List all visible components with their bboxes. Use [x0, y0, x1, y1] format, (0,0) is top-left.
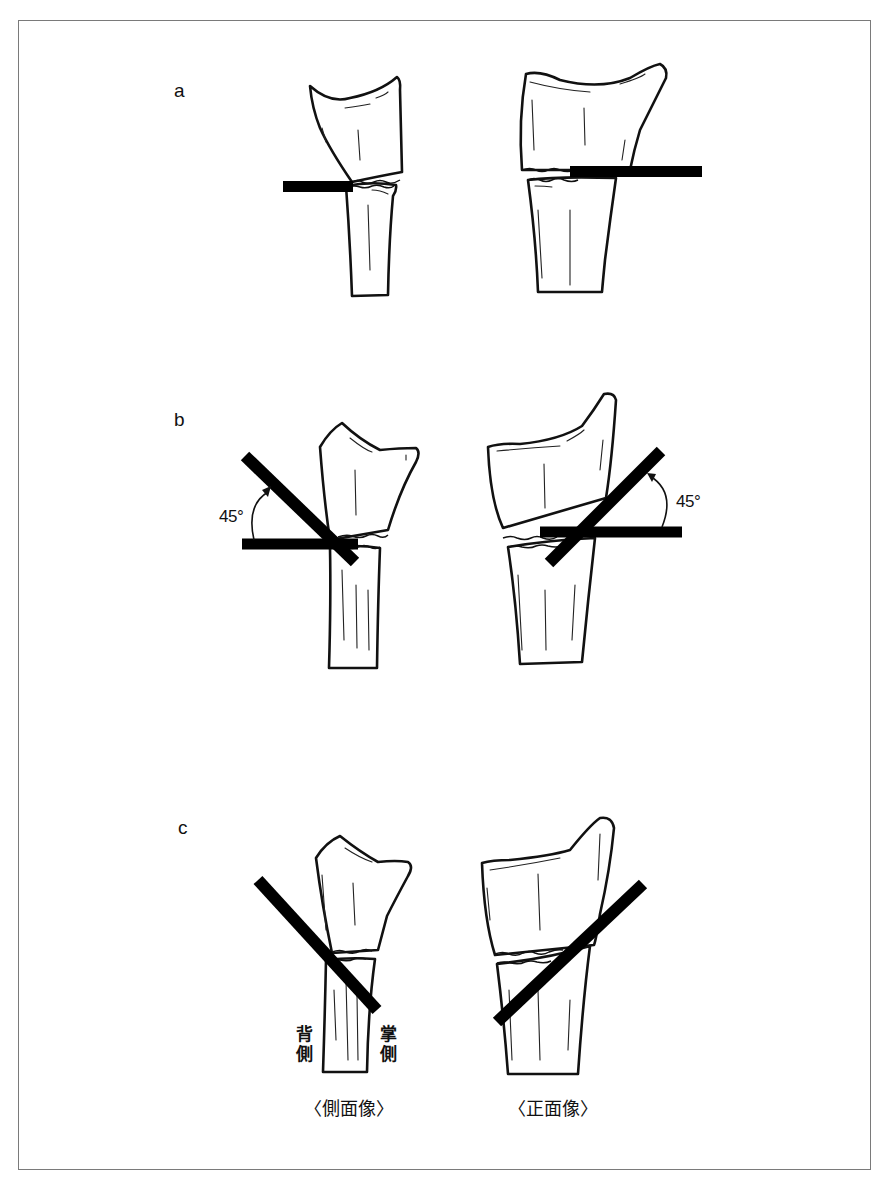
panel-label-a: a	[174, 81, 185, 100]
panel-b-ap-angle-label: 45°	[676, 493, 700, 510]
lateral-view-caption: 〈側面像〉	[304, 1100, 394, 1118]
panel-label-c: c	[178, 818, 188, 837]
panel-b-ap-angle-arrowhead	[647, 473, 656, 482]
panel-a-lateral-bar	[283, 181, 353, 192]
dorsal-side-label: 背側	[294, 1024, 314, 1064]
panel-b-lateral-angle-arc	[252, 492, 268, 540]
panel-a-ap-bone	[521, 64, 667, 292]
panel-b-ap-angle-arc	[650, 476, 667, 527]
ap-view-caption: 〈正面像〉	[508, 1100, 598, 1118]
panel-a-ap-bar	[570, 166, 702, 177]
fracture-diagram	[0, 0, 885, 1186]
panel-label-b: b	[174, 410, 185, 429]
panel-b-lateral-angle-label: 45°	[219, 508, 243, 525]
palmar-side-label: 掌側	[378, 1024, 398, 1064]
panel-c-ap-bone	[482, 818, 614, 1074]
